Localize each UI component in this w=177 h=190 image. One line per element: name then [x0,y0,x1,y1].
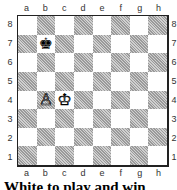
square-a2 [18,128,37,147]
file-label: e [93,168,112,178]
square-h3 [148,109,167,128]
rank-label: 2 [4,128,16,147]
file-label: h [149,168,168,178]
square-c6 [55,53,74,72]
file-label: c [55,168,74,178]
square-c2 [55,128,74,147]
rank-label: 7 [4,34,16,53]
square-h2 [148,128,167,147]
square-e6 [93,53,112,72]
white-king-icon: ♔ [57,92,71,108]
square-e8 [93,16,112,35]
rank-label: 4 [4,91,16,110]
square-g3 [130,109,149,128]
square-f4 [111,91,130,110]
square-b3 [37,109,56,128]
file-labels-top: a b c d e f g h [17,3,168,13]
square-c8 [55,16,74,35]
square-d1 [74,146,93,165]
square-c1 [55,146,74,165]
square-h6 [148,53,167,72]
square-a3 [18,109,37,128]
rank-label: 8 [4,15,16,34]
file-label: b [36,168,55,178]
rank-label: 6 [168,53,177,72]
square-b1 [37,146,56,165]
square-d8 [74,16,93,35]
file-label: e [93,3,112,13]
file-label: d [74,3,93,13]
file-label: a [17,3,36,13]
square-e1 [93,146,112,165]
square-e4 [93,91,112,110]
rank-label: 2 [168,128,177,147]
square-d5 [74,72,93,91]
square-d4 [74,91,93,110]
rank-label: 4 [168,91,177,110]
square-d2 [74,128,93,147]
square-f6 [111,53,130,72]
square-b8 [37,16,56,35]
square-c4: ♔ [55,91,74,110]
square-e7 [93,35,112,54]
rank-label: 3 [4,109,16,128]
file-labels-bottom: a b c d e f g h [17,168,168,178]
square-h1 [148,146,167,165]
square-b6 [37,53,56,72]
rank-label: 5 [4,72,16,91]
square-a6 [18,53,37,72]
file-label: h [149,3,168,13]
square-c7 [55,35,74,54]
square-e2 [93,128,112,147]
file-label: a [17,168,36,178]
file-label: b [36,3,55,13]
square-c3 [55,109,74,128]
square-f7 [111,35,130,54]
square-d7 [74,35,93,54]
square-h7 [148,35,167,54]
rank-label: 8 [168,15,177,34]
square-d3 [74,109,93,128]
file-label: d [74,168,93,178]
square-g2 [130,128,149,147]
square-a7 [18,35,37,54]
square-g7 [130,35,149,54]
square-f8 [111,16,130,35]
square-e3 [93,109,112,128]
rank-label: 1 [4,147,16,166]
square-b7: ♚ [37,35,56,54]
square-g8 [130,16,149,35]
square-b2 [37,128,56,147]
rank-label: 6 [4,53,16,72]
square-a1 [18,146,37,165]
square-f2 [111,128,130,147]
rank-labels-left: 8 7 6 5 4 3 2 1 [4,15,16,166]
square-c5 [55,72,74,91]
caption: White to play and win [4,179,146,190]
square-g6 [130,53,149,72]
rank-labels-right: 8 7 6 5 4 3 2 1 [168,15,177,166]
square-b5 [37,72,56,91]
rank-label: 3 [168,109,177,128]
square-d6 [74,53,93,72]
white-pawn-icon: ♙ [39,92,53,108]
file-label: f [111,168,130,178]
square-h4 [148,91,167,110]
black-king-icon: ♚ [39,36,53,52]
file-label: c [55,3,74,13]
file-label: g [130,168,149,178]
square-f1 [111,146,130,165]
square-h5 [148,72,167,91]
rank-label: 1 [168,147,177,166]
rank-label: 7 [168,34,177,53]
square-b4: ♙ [37,91,56,110]
file-label: g [130,3,149,13]
chess-board: ♚♙♔ [17,15,169,167]
square-a5 [18,72,37,91]
square-f3 [111,109,130,128]
square-g1 [130,146,149,165]
square-a4 [18,91,37,110]
square-a8 [18,16,37,35]
square-f5 [111,72,130,91]
square-g4 [130,91,149,110]
